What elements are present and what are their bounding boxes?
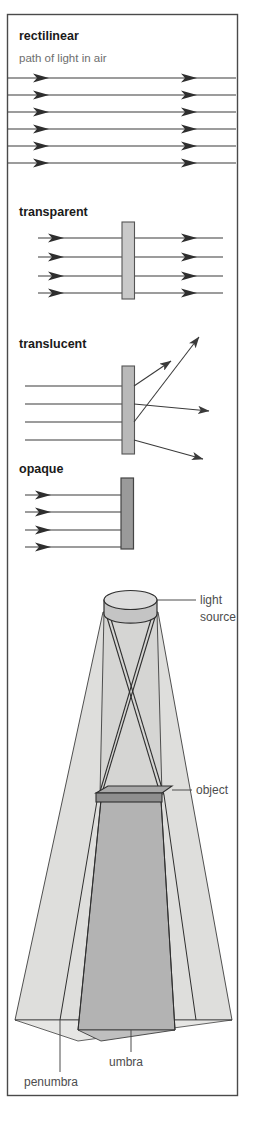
- rectilinear-rays: [8, 78, 236, 163]
- panel-opaque: opaque: [19, 462, 134, 552]
- panel-shadow-diagram: light source object umbra penumbra: [15, 591, 236, 1090]
- light-source-label-line1: light: [200, 593, 223, 607]
- opaque-arrowheads: [35, 491, 51, 552]
- light-properties-figure: rectilinear path of light in air tra: [0, 0, 260, 1121]
- translucent-slab: [122, 366, 135, 454]
- panel-translucent-title: translucent: [19, 337, 87, 351]
- panel-rectilinear-subtitle: path of light in air: [19, 52, 107, 64]
- translucent-scattered-rays: [134, 337, 209, 459]
- panel-transparent: transparent: [19, 205, 223, 299]
- light-source-label-line2: source: [200, 610, 236, 624]
- panel-rectilinear-title: rectilinear: [19, 29, 79, 43]
- panel-transparent-title: transparent: [19, 205, 89, 219]
- opaque-slab: [121, 478, 134, 549]
- object-front-face: [96, 793, 162, 802]
- translucent-incoming-rays: [25, 386, 123, 440]
- figure-canvas: rectilinear path of light in air tra: [0, 0, 260, 1121]
- opaque-rays: [25, 495, 122, 547]
- penumbra-label: penumbra: [24, 1075, 78, 1089]
- light-source-top: [104, 591, 157, 610]
- rectilinear-arrowheads: [33, 74, 197, 168]
- panel-rectilinear: rectilinear path of light in air: [8, 29, 236, 168]
- panel-translucent: translucent: [19, 337, 209, 459]
- umbra-label: umbra: [109, 1055, 143, 1069]
- panel-opaque-title: opaque: [19, 462, 63, 476]
- object-top-face: [96, 786, 172, 793]
- transparent-slab: [122, 222, 135, 299]
- object-label: object: [196, 783, 229, 797]
